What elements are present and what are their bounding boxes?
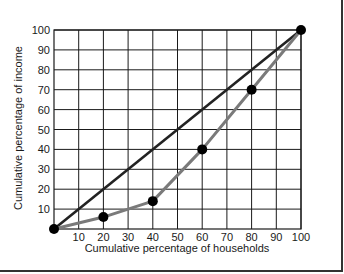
data-point-marker — [98, 212, 108, 222]
y-tick-label: 70 — [38, 84, 50, 96]
y-tick-label: 10 — [38, 203, 50, 215]
y-tick-label: 90 — [38, 44, 50, 56]
data-point-marker — [148, 196, 158, 206]
y-tick-label: 20 — [38, 183, 50, 195]
x-tick-label: 100 — [292, 231, 310, 243]
y-tick-label: 50 — [38, 124, 50, 136]
y-tick-label: 40 — [38, 143, 50, 155]
data-point-marker — [49, 224, 59, 234]
y-tick-label: 100 — [32, 24, 50, 36]
x-tick-label: 90 — [270, 231, 282, 243]
y-tick-label: 80 — [38, 64, 50, 76]
y-tick-label: 60 — [38, 104, 50, 116]
y-tick-label: 30 — [38, 163, 50, 175]
data-point-marker — [247, 85, 257, 95]
data-point-marker — [197, 144, 207, 154]
lorenz-chart: 102030405060708090100 102030405060708090… — [0, 0, 344, 274]
y-axis-ticks: 102030405060708090100 — [32, 24, 50, 215]
y-axis-label: Cumulative percentage of income — [12, 46, 24, 210]
x-axis-label: Cumulative percentage of households — [85, 242, 270, 254]
data-point-marker — [296, 25, 306, 35]
x-tick-label: 10 — [73, 231, 85, 243]
